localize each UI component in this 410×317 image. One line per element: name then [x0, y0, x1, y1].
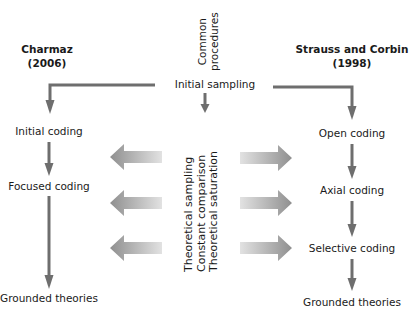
left-column-title: Charmaz — [21, 42, 73, 56]
procedure-theoretical-saturation: Theoretical saturation — [208, 151, 221, 272]
right-column-year: (1998) — [296, 56, 409, 70]
right-step-open-coding: Open coding — [319, 127, 385, 139]
center-down-arrow — [201, 93, 210, 113]
common-procedures-header: Common procedures — [196, 12, 220, 71]
right-column-title: Strauss and Corbin — [296, 42, 409, 56]
right-column-header: Strauss and Corbin (1998) — [296, 42, 409, 70]
left-branch-connector — [46, 85, 156, 114]
left-column-arrow-1 — [45, 142, 54, 176]
left-column-year: (2006) — [21, 56, 73, 70]
left-step-focused-coding: Focused coding — [8, 180, 90, 192]
left-step-initial-coding: Initial coding — [15, 125, 83, 137]
fat-arrow-right-1 — [240, 145, 292, 171]
fat-arrow-left-1 — [110, 144, 162, 170]
left-column-header: Charmaz (2006) — [21, 42, 73, 70]
procedure-theoretical-sampling: Theoretical sampling — [183, 151, 196, 272]
right-step-axial-coding: Axial coding — [320, 184, 384, 196]
common-procedures-line1: Common — [196, 12, 208, 71]
right-column-arrow-1 — [348, 144, 357, 179]
right-step-selective-coding: Selective coding — [309, 242, 395, 254]
fat-arrow-left-2 — [110, 190, 162, 216]
right-column-arrow-3 — [348, 259, 357, 291]
right-step-grounded-theories: Grounded theories — [303, 296, 401, 308]
fat-arrow-left-3 — [110, 235, 162, 261]
initial-sampling-node: Initial sampling — [175, 78, 255, 90]
fat-arrow-right-3 — [240, 235, 292, 261]
fat-arrow-right-2 — [240, 190, 292, 216]
common-procedures-line2: procedures — [208, 12, 220, 71]
right-branch-connector — [273, 87, 357, 120]
common-procedures-list: Theoretical sampling Constant comparison… — [183, 151, 221, 272]
right-column-arrow-2 — [348, 201, 357, 237]
left-column-arrow-2 — [45, 196, 54, 289]
left-step-grounded-theories: Grounded theories — [0, 292, 98, 304]
